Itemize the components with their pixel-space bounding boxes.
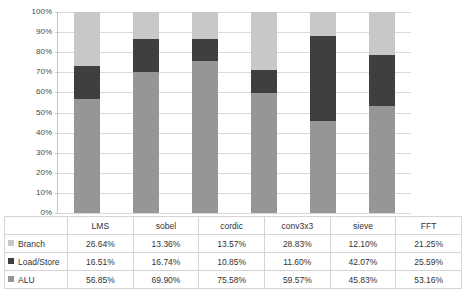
y-axis-tick-label: 70% xyxy=(36,67,52,77)
legend-entry[interactable]: Branch xyxy=(5,235,68,253)
y-axis-tick-label: 30% xyxy=(36,148,52,158)
x-axis-category-label: sieve xyxy=(330,217,396,235)
bar-column[interactable] xyxy=(369,12,395,213)
bar-segment[interactable] xyxy=(369,106,395,213)
y-axis-tick-label: 80% xyxy=(36,47,52,57)
legend-entry[interactable]: Load/Store xyxy=(5,253,68,271)
bar-series-container xyxy=(58,12,411,213)
table-cell-value: 69.90% xyxy=(133,271,199,289)
bar-segment[interactable] xyxy=(310,121,336,213)
x-axis-category-label: sobel xyxy=(133,217,199,235)
y-axis-tick-label: 90% xyxy=(36,27,52,37)
table-cell-value: 16.51% xyxy=(68,253,134,271)
bar-segment[interactable] xyxy=(133,39,159,73)
bar-segment[interactable] xyxy=(74,99,100,213)
table-header-row: LMSsobelcordicconv3x3sieveFFT xyxy=(5,217,462,235)
table-cell-value: 59.57% xyxy=(264,271,330,289)
table-cell-value: 53.16% xyxy=(396,271,462,289)
bar-segment[interactable] xyxy=(133,12,159,39)
table-cell-value: 56.85% xyxy=(68,271,134,289)
bar-column[interactable] xyxy=(251,12,277,213)
y-axis-tick-label: 20% xyxy=(36,168,52,178)
table-row: Branch26.64%13.36%13.57%28.83%12.10%21.2… xyxy=(5,235,462,253)
table-cell-value: 12.10% xyxy=(330,235,396,253)
legend-swatch-icon xyxy=(8,276,14,282)
table-cell-value: 13.36% xyxy=(133,235,199,253)
bar-segment[interactable] xyxy=(310,36,336,121)
x-axis-category-label: LMS xyxy=(68,217,134,235)
table-cell-value: 28.83% xyxy=(264,235,330,253)
y-axis-tickmark xyxy=(55,213,58,214)
y-axis-tick-label: 40% xyxy=(36,128,52,138)
table-corner-cell xyxy=(5,217,68,235)
table-cell-value: 45.83% xyxy=(330,271,396,289)
table-cell-value: 10.85% xyxy=(199,253,265,271)
bar-column[interactable] xyxy=(74,12,100,213)
legend-swatch-icon xyxy=(8,240,14,246)
table-cell-value: 26.64% xyxy=(68,235,134,253)
x-axis-category-label: conv3x3 xyxy=(264,217,330,235)
bar-segment[interactable] xyxy=(192,12,218,39)
table-cell-value: 25.59% xyxy=(396,253,462,271)
chart-data-table: LMSsobelcordicconv3x3sieveFFTBranch26.64… xyxy=(4,216,462,289)
y-axis-tick-label: 50% xyxy=(36,108,52,118)
y-axis-labels: 100%90%80%70%60%50%40%30%20%10%0% xyxy=(0,12,52,213)
table-cell-value: 75.58% xyxy=(199,271,265,289)
bar-segment[interactable] xyxy=(310,12,336,36)
table-row: ALU56.85%69.90%75.58%59.57%45.83%53.16% xyxy=(5,271,462,289)
bar-column[interactable] xyxy=(192,12,218,213)
bar-column[interactable] xyxy=(310,12,336,213)
data-table-body: LMSsobelcordicconv3x3sieveFFTBranch26.64… xyxy=(5,217,462,289)
bar-segment[interactable] xyxy=(369,12,395,55)
y-axis-tick-label: 10% xyxy=(36,188,52,198)
x-axis-category-label: FFT xyxy=(396,217,462,235)
bar-segment[interactable] xyxy=(133,72,159,212)
bar-segment[interactable] xyxy=(192,61,218,213)
legend-label: Load/Store xyxy=(18,257,60,267)
table-row: Load/Store16.51%16.74%10.85%11.60%42.07%… xyxy=(5,253,462,271)
plot-area xyxy=(57,12,410,213)
legend-swatch-icon xyxy=(8,258,14,264)
legend-label: Branch xyxy=(18,239,45,249)
bar-segment[interactable] xyxy=(251,12,277,70)
bar-segment[interactable] xyxy=(251,70,277,93)
table-cell-value: 42.07% xyxy=(330,253,396,271)
gridline xyxy=(58,213,411,214)
y-axis-tick-label: 60% xyxy=(36,87,52,97)
legend-label: ALU xyxy=(18,275,35,285)
bar-segment[interactable] xyxy=(369,55,395,106)
table-cell-value: 13.57% xyxy=(199,235,265,253)
y-axis-tick-label: 100% xyxy=(32,7,52,17)
table-cell-value: 16.74% xyxy=(133,253,199,271)
bar-column[interactable] xyxy=(133,12,159,213)
bar-segment[interactable] xyxy=(74,66,100,99)
x-axis-category-label: cordic xyxy=(199,217,265,235)
table-cell-value: 21.25% xyxy=(396,235,462,253)
legend-entry[interactable]: ALU xyxy=(5,271,68,289)
bar-segment[interactable] xyxy=(74,12,100,66)
chart-plot-region: 100%90%80%70%60%50%40%30%20%10%0% xyxy=(0,0,417,218)
bar-segment[interactable] xyxy=(251,93,277,213)
table-cell-value: 11.60% xyxy=(264,253,330,271)
bar-segment[interactable] xyxy=(192,39,218,61)
